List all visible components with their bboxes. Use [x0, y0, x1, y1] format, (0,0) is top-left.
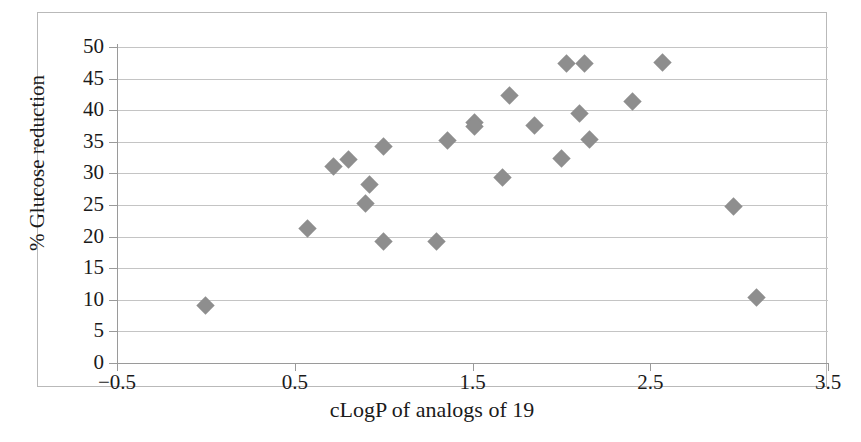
data-point-marker	[581, 131, 599, 149]
data-point-marker	[526, 116, 544, 134]
y-tick-label: 50	[44, 36, 104, 57]
y-tick-mark	[109, 237, 117, 238]
y-tick-mark	[109, 79, 117, 80]
data-point-marker	[360, 175, 378, 193]
y-axis-title-text: % Glucose reduction	[26, 0, 48, 328]
y-tick-label: 35	[44, 131, 104, 152]
data-point-marker	[558, 54, 576, 72]
data-point-marker	[725, 198, 743, 216]
y-tick-mark	[109, 363, 117, 364]
data-point-marker	[438, 131, 456, 149]
y-tick-mark	[109, 331, 117, 332]
y-tick-label: 40	[44, 99, 104, 120]
y-tick-mark	[109, 205, 117, 206]
data-point-marker	[501, 86, 519, 104]
data-point-marker	[570, 104, 588, 122]
data-point-marker	[552, 150, 570, 168]
x-tick-label: 3.5	[788, 371, 861, 393]
x-tick-label: −0.5	[77, 371, 157, 393]
data-point-marker	[653, 54, 671, 72]
data-point-marker	[428, 232, 446, 250]
data-point-marker	[298, 219, 316, 237]
data-point-marker	[197, 296, 215, 314]
y-tick-mark	[109, 268, 117, 269]
y-tick-label: 15	[44, 257, 104, 278]
data-point-marker	[748, 288, 766, 306]
x-tick-label: 0.5	[255, 371, 335, 393]
data-point-marker	[575, 54, 593, 72]
y-tick-label: 10	[44, 289, 104, 310]
x-tick-label: 2.5	[610, 371, 690, 393]
y-tick-mark	[109, 300, 117, 301]
data-point-marker	[374, 232, 392, 250]
y-tick-label: 5	[44, 320, 104, 341]
y-tick-label: 30	[44, 162, 104, 183]
y-tick-label: 45	[44, 68, 104, 89]
data-point-marker	[494, 168, 512, 186]
scatter-chart-figure: 05101520253035404550 −0.50.51.52.53.5 % …	[0, 0, 861, 442]
y-tick-label: 25	[44, 194, 104, 215]
x-axis-title-text: cLogP of analogs of 19	[37, 398, 827, 422]
plot-data-area	[117, 47, 828, 363]
y-tick-label: 0	[44, 352, 104, 373]
x-tick-label: 1.5	[433, 371, 513, 393]
y-tick-mark	[109, 47, 117, 48]
y-tick-mark	[109, 142, 117, 143]
y-tick-label: 20	[44, 226, 104, 247]
data-point-marker	[357, 195, 375, 213]
data-point-marker	[623, 92, 641, 110]
data-point-marker	[374, 138, 392, 156]
y-tick-mark	[109, 173, 117, 174]
y-tick-mark	[109, 110, 117, 111]
